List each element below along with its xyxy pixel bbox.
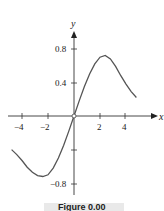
origin-open-circle bbox=[72, 114, 76, 118]
y-tick-label: −0.8 bbox=[50, 179, 67, 189]
y-tick-label: 0.8 bbox=[55, 44, 67, 54]
chart: x y −4 −2 2 4 0.8 0.4 −0.8 bbox=[0, 0, 164, 211]
x-tick-label: 2 bbox=[97, 122, 102, 132]
y-axis-arrow-icon bbox=[71, 31, 77, 38]
x-tick-label: 4 bbox=[122, 122, 127, 132]
figure-caption: Figure 0.00 bbox=[58, 202, 106, 211]
x-axis-label: x bbox=[158, 111, 164, 122]
y-axis-label: y bbox=[70, 18, 76, 29]
x-tick-label: −2 bbox=[40, 122, 50, 132]
x-tick-label: −4 bbox=[14, 122, 24, 132]
y-tick-label: 0.4 bbox=[55, 78, 67, 88]
x-axis-arrow-icon bbox=[151, 113, 158, 119]
